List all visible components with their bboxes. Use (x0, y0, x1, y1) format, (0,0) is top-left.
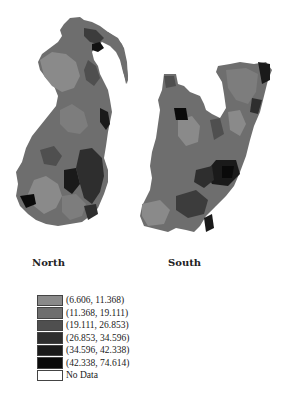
legend-label: (42.338, 74.614) (66, 357, 129, 369)
legend-item: (26.853, 34.596) (37, 332, 129, 345)
south-region (140, 62, 272, 232)
legend-label: No Data (66, 369, 98, 381)
legend-item: (34.596, 42.338) (37, 344, 129, 357)
legend-swatch (37, 307, 63, 319)
choropleth-map (0, 0, 290, 260)
legend-item: (42.338, 74.614) (37, 357, 129, 370)
legend-swatch (37, 320, 63, 332)
south-label: South (168, 257, 201, 268)
legend-item: (11.368, 19.111) (37, 307, 129, 320)
legend-swatch (37, 332, 63, 344)
north-region (16, 17, 128, 226)
legend-item: (19.111, 26.853) (37, 319, 129, 332)
legend-swatch (37, 295, 63, 307)
legend-label: (19.111, 26.853) (66, 319, 129, 331)
legend-label: (6.606, 11.368) (66, 294, 124, 306)
legend-swatch (37, 345, 63, 357)
legend-label: (34.596, 42.338) (66, 344, 129, 356)
legend-label: (26.853, 34.596) (66, 332, 129, 344)
legend-swatch (37, 357, 63, 369)
legend-item: (6.606, 11.368) (37, 294, 129, 307)
map-legend: (6.606, 11.368) (11.368, 19.111) (19.111… (37, 294, 129, 382)
north-label: North (32, 257, 65, 268)
legend-item: No Data (37, 369, 129, 382)
legend-label: (11.368, 19.111) (66, 307, 128, 319)
legend-swatch (37, 370, 63, 382)
